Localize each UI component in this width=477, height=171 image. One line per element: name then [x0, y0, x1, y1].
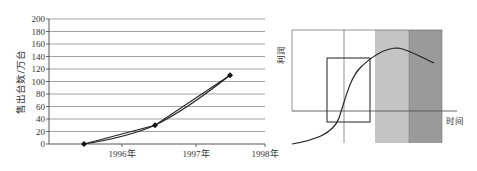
y-tick: 40 [36, 114, 46, 124]
y-tick: 200 [32, 14, 46, 24]
y-tick: 100 [32, 77, 46, 87]
y-tick: 0 [41, 139, 46, 149]
x-tick: 1996年 [109, 148, 136, 159]
y-tick: 60 [36, 102, 46, 112]
diamond-marker [152, 122, 158, 128]
stage-band-light [375, 30, 409, 143]
time-axis-label: 时间 [446, 116, 464, 126]
y-tick: 20 [36, 127, 46, 137]
y-tick: 80 [36, 89, 46, 99]
stage-band-dark [409, 30, 442, 143]
series-polyline [84, 75, 230, 144]
lifecycle-diagram: 利润 时间 [276, 30, 464, 144]
x-tick-labels: 1996年 1997年 1998年 [109, 148, 279, 159]
figure: 200 180 160 140 120 100 80 60 40 20 0 19… [0, 0, 477, 171]
data-markers [81, 72, 233, 147]
y-tick-labels: 200 180 160 140 120 100 80 60 40 20 0 [32, 14, 46, 149]
profit-axis-label: 利润 [276, 46, 286, 64]
y-tick: 140 [32, 52, 46, 62]
y-tick: 180 [32, 27, 46, 37]
y-tick: 160 [32, 39, 46, 49]
sales-chart: 200 180 160 140 120 100 80 60 40 20 0 19… [15, 14, 279, 159]
series-curve [84, 75, 230, 144]
diamond-marker [81, 141, 87, 147]
y-axis-label: 售出台数/万台 [15, 50, 26, 113]
y-tick: 120 [32, 64, 46, 74]
x-tick: 1998年 [252, 148, 279, 159]
x-tick: 1997年 [183, 148, 210, 159]
